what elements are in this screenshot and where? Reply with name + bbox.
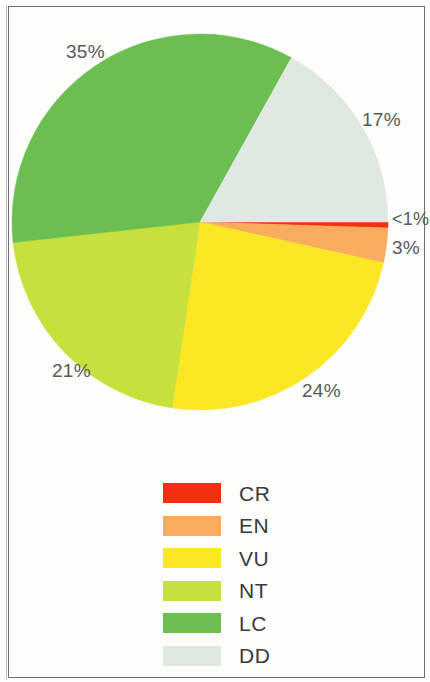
legend-item-vu: VU [163, 542, 343, 575]
pie-label-dd: 17% [362, 109, 401, 131]
pie-label-lc: 35% [66, 41, 105, 63]
legend-item-dd: DD [163, 640, 343, 673]
legend-label-vu: VU [239, 548, 269, 569]
pie-label-en: 3% [392, 237, 420, 259]
legend-label-en: EN [239, 515, 269, 536]
pie-label-nt: 21% [52, 360, 91, 382]
legend-swatch-cr [163, 483, 221, 503]
pie-chart-area: 35% 17% <1% 3% 21% 24% [0, 0, 430, 440]
legend-swatch-lc [163, 613, 221, 633]
pie-label-cr: <1% [392, 209, 429, 230]
legend-label-dd: DD [239, 645, 270, 666]
legend-item-nt: NT [163, 575, 343, 608]
pie-slice-group [12, 34, 388, 410]
pie-chart-figure: 35% 17% <1% 3% 21% 24% CRENVUNTLCDD [0, 0, 430, 682]
legend-swatch-nt [163, 581, 221, 601]
legend-item-lc: LC [163, 607, 343, 640]
legend-label-nt: NT [239, 580, 268, 601]
legend-item-en: EN [163, 510, 343, 543]
legend-swatch-en [163, 516, 221, 536]
legend-label-lc: LC [239, 613, 267, 634]
pie-slice-nt [13, 222, 200, 408]
legend-swatch-vu [163, 548, 221, 568]
legend-item-cr: CR [163, 477, 343, 510]
legend-swatch-dd [163, 646, 221, 666]
legend-label-cr: CR [239, 483, 270, 504]
chart-legend: CRENVUNTLCDD [163, 477, 343, 672]
pie-label-vu: 24% [302, 380, 341, 402]
